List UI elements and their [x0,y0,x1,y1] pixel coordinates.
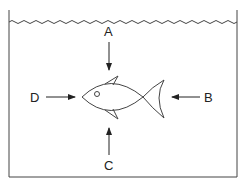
label-c: C [104,159,113,172]
fish [82,76,164,119]
arrows [46,42,200,155]
tank [9,10,237,177]
label-a: A [104,25,113,38]
label-d: D [30,91,39,104]
fish-eye [95,92,100,97]
water-surface [9,21,237,24]
label-b: B [204,91,213,104]
